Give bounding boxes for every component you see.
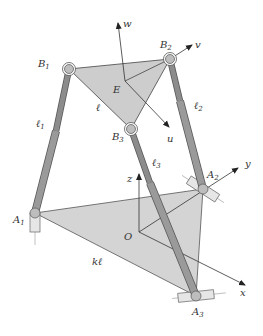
label-e: E [112,84,121,95]
label-a1: A1 [12,214,25,227]
joint-a1 [30,208,40,218]
label-b3: B3 [111,131,124,144]
label-v: v [195,39,201,50]
label-a2: A2 [206,169,219,182]
label-l3: ℓ3 [152,157,161,170]
label-y: y [244,158,251,169]
label-a3: A3 [191,306,204,319]
joint-a2 [198,184,208,194]
parallel-manipulator-diagram: B1 B2 B3 E w v u ℓ ℓ1 ℓ2 ℓ3 A1 A2 A3 O z… [0,0,263,336]
label-x: x [240,287,246,298]
label-z: z [126,173,133,184]
leg-1 [35,69,69,213]
joint-b3 [125,123,138,136]
joint-b1 [63,63,76,76]
label-l1: ℓ1 [36,118,45,131]
label-w: w [123,18,132,29]
label-o: O [124,231,132,242]
joint-a3 [191,291,201,301]
label-b2: B2 [159,39,172,52]
diagram-canvas: B1 B2 B3 E w v u ℓ ℓ1 ℓ2 ℓ3 A1 A2 A3 O z… [0,0,263,336]
label-base-side: kℓ [92,256,102,267]
label-l2: ℓ2 [194,100,203,113]
label-platform-side: ℓ [96,102,100,113]
label-u: u [167,133,173,144]
leg-2 [170,59,203,189]
joint-b2 [164,53,177,66]
label-b1: B1 [37,58,50,71]
